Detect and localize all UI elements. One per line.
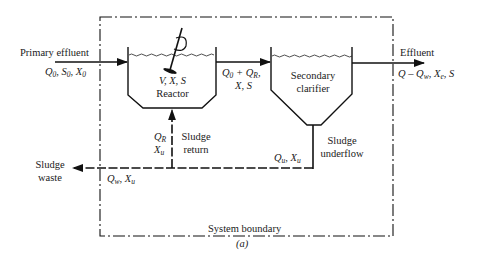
effluent-title: Effluent — [400, 47, 434, 59]
reactor-variables: V, X, S — [145, 75, 200, 87]
clarifier-line1: Secondary — [280, 70, 346, 82]
clarifier-line2: clarifier — [280, 83, 346, 95]
sludge-return-label1: Sludge — [176, 131, 216, 143]
sludge-underflow-label1: Sludge — [316, 135, 368, 147]
mixed-liquor-flow: Q0 + QR, — [222, 67, 261, 79]
effluent-variables: Q – Qw, Xe, S — [398, 68, 454, 80]
sludge-waste-label2: waste — [30, 172, 70, 184]
mixed-liquor-conc: X, S — [235, 80, 252, 92]
system-boundary — [100, 17, 393, 236]
inflow-title: Primary effluent — [20, 47, 89, 59]
reactor-name: Reactor — [145, 88, 200, 100]
system-boundary-label: System boundary — [208, 223, 281, 235]
inflow-variables: Q0, S0, X0 — [45, 66, 86, 78]
sludge-return-label2: return — [176, 144, 216, 156]
sludge-return-x: Xu — [154, 144, 164, 156]
sludge-waste-variables: Qw, Xu — [107, 173, 135, 185]
sludge-underflow-variables: Qu, Xu — [274, 152, 301, 164]
mixer-icon — [163, 28, 187, 75]
reactor-water-surface — [129, 54, 214, 56]
figure-caption: (a) — [236, 238, 248, 250]
sludge-underflow-label2: underflow — [316, 148, 368, 160]
clarifier-water-surface — [272, 55, 352, 57]
sludge-waste-label1: Sludge — [30, 159, 70, 171]
sludge-return-q: QR — [154, 131, 166, 143]
